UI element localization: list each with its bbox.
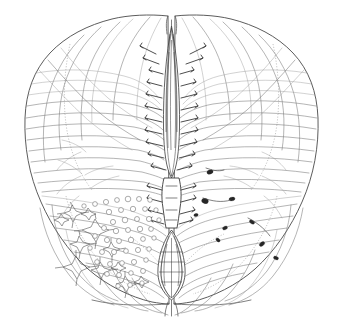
figure-root: [0, 0, 343, 328]
spinal-cord-diagram: [0, 0, 343, 328]
central-canal: [162, 178, 181, 228]
cord-outline-right: [174, 15, 318, 304]
central-canal-shape: [162, 178, 181, 228]
